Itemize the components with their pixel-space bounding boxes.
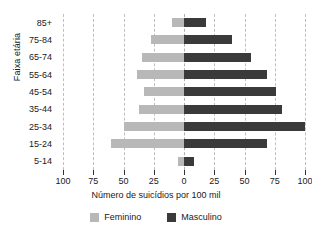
legend-item-feminino: Feminino — [90, 212, 141, 222]
x-tick-5 — [214, 170, 215, 175]
x-axis: 1007550250255075100 — [63, 170, 305, 171]
y-tick-label-15-24: 15-24 — [0, 135, 58, 152]
legend-label-feminino: Feminino — [104, 212, 141, 222]
plot-area — [63, 14, 305, 170]
x-tick-1 — [93, 170, 94, 175]
y-tick-label-55-64: 55-64 — [0, 66, 58, 83]
y-tick-label-75-84: 75-84 — [0, 31, 58, 48]
bar-feminino-65-74 — [142, 53, 184, 62]
legend-item-masculino: Masculino — [167, 212, 222, 222]
x-tick-7 — [275, 170, 276, 175]
bar-row-5-14 — [63, 153, 305, 170]
bar-rows — [63, 14, 305, 170]
bar-masculino-15-24 — [184, 139, 267, 148]
gridline-8 — [305, 14, 306, 170]
x-tick-0 — [63, 170, 64, 175]
x-tick-8 — [305, 170, 306, 175]
bar-masculino-5-14 — [184, 157, 194, 166]
bar-feminino-35-44 — [139, 105, 184, 114]
x-axis-title: Número de suicídios por 100 mil — [0, 190, 312, 200]
bar-feminino-15-24 — [111, 139, 184, 148]
y-tick-label-45-54: 45-54 — [0, 83, 58, 100]
suicide-rate-population-pyramid-chart: Faixa etária 85+ 75-84 65-74 55-64 45-54… — [0, 0, 312, 236]
bar-row-45-54 — [63, 83, 305, 100]
bar-row-55-64 — [63, 66, 305, 83]
bar-masculino-65-74 — [184, 53, 251, 62]
y-tick-label-5-14: 5-14 — [0, 153, 58, 170]
bar-feminino-75-84 — [151, 35, 184, 44]
bar-feminino-85plus — [172, 18, 184, 27]
legend-swatch-masculino-icon — [167, 213, 176, 222]
x-tick-label-7: 75 — [270, 176, 280, 186]
chart-legend: Feminino Masculino — [0, 212, 312, 222]
y-tick-label-25-34: 25-34 — [0, 118, 58, 135]
bar-row-35-44 — [63, 101, 305, 118]
bar-row-75-84 — [63, 31, 305, 48]
x-tick-6 — [245, 170, 246, 175]
x-tick-label-3: 25 — [149, 176, 159, 186]
y-tick-label-65-74: 65-74 — [0, 49, 58, 66]
x-tick-label-5: 25 — [209, 176, 219, 186]
bar-masculino-75-84 — [184, 35, 232, 44]
x-tick-label-4: 0 — [181, 176, 186, 186]
x-tick-label-6: 50 — [239, 176, 249, 186]
y-tick-label-85plus: 85+ — [0, 14, 58, 31]
y-tick-label-35-44: 35-44 — [0, 101, 58, 118]
x-tick-label-1: 75 — [88, 176, 98, 186]
bar-row-15-24 — [63, 135, 305, 152]
bar-masculino-55-64 — [184, 70, 267, 79]
x-tick-4 — [184, 170, 185, 175]
x-tick-2 — [124, 170, 125, 175]
x-tick-label-0: 100 — [55, 176, 70, 186]
bar-row-25-34 — [63, 118, 305, 135]
bar-masculino-85plus — [184, 18, 206, 27]
bar-masculino-35-44 — [184, 105, 282, 114]
bar-feminino-25-34 — [124, 122, 185, 131]
legend-label-masculino: Masculino — [181, 212, 222, 222]
x-tick-3 — [154, 170, 155, 175]
bar-masculino-25-34 — [184, 122, 305, 131]
bar-masculino-45-54 — [184, 87, 276, 96]
legend-swatch-feminino-icon — [90, 213, 99, 222]
bar-feminino-45-54 — [144, 87, 184, 96]
bar-row-65-74 — [63, 49, 305, 66]
y-axis-tick-labels: 85+ 75-84 65-74 55-64 45-54 35-44 25-34 … — [0, 14, 58, 170]
bar-row-85plus — [63, 14, 305, 31]
x-tick-label-2: 50 — [118, 176, 128, 186]
x-tick-label-8: 100 — [297, 176, 312, 186]
bar-feminino-55-64 — [137, 70, 184, 79]
